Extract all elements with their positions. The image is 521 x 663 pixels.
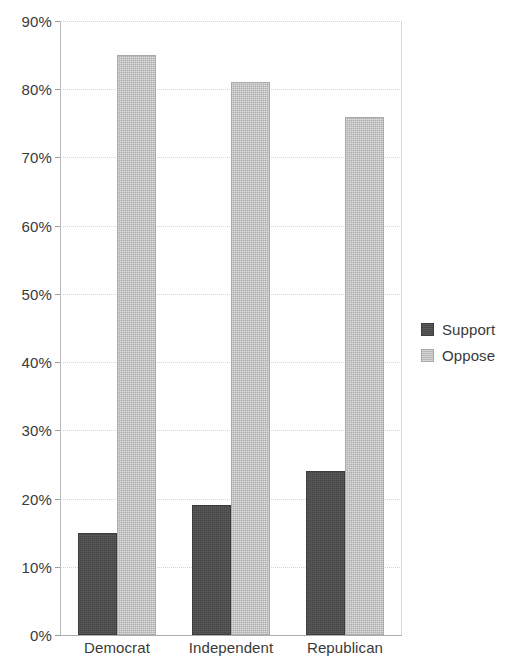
- bar-oppose-democrat: [117, 55, 156, 635]
- y-axis-tick-label: 60%: [21, 217, 52, 234]
- y-axis-tick-label: 80%: [21, 81, 52, 98]
- y-axis-tick: [55, 294, 60, 295]
- legend-item-support[interactable]: Support: [421, 316, 495, 342]
- bar-chart: 0%10%20%30%40%50%60%70%80%90% DemocratIn…: [0, 0, 521, 663]
- y-axis-labels: 0%10%20%30%40%50%60%70%80%90%: [0, 21, 60, 635]
- bar-group: [192, 21, 270, 635]
- x-axis-tick-label: Independent: [189, 639, 274, 656]
- x-axis-tick-label: Democrat: [84, 639, 150, 656]
- y-axis-tick-label: 50%: [21, 285, 52, 302]
- y-axis-tick-label: 30%: [21, 422, 52, 439]
- plot-area: [60, 21, 402, 635]
- y-axis-tick: [55, 226, 60, 227]
- bar-support-democrat: [78, 533, 117, 635]
- x-axis-tick-label: Republican: [307, 639, 383, 656]
- y-axis-tick-label: 90%: [21, 13, 52, 30]
- bar-oppose-independent: [231, 82, 270, 635]
- y-axis-tick: [55, 89, 60, 90]
- y-axis-tick: [55, 499, 60, 500]
- gridline: [60, 635, 402, 636]
- y-axis-tick: [55, 635, 60, 636]
- x-axis-labels: DemocratIndependentRepublican: [60, 639, 402, 663]
- legend-swatch-icon: [421, 323, 434, 336]
- legend-swatch-icon: [421, 349, 434, 362]
- bar-oppose-republican: [345, 117, 384, 635]
- y-axis-tick-label: 10%: [21, 558, 52, 575]
- y-axis-tick-label: 0%: [30, 627, 52, 644]
- y-axis-tick: [55, 21, 60, 22]
- bar-group: [78, 21, 156, 635]
- bar-support-independent: [192, 505, 231, 635]
- y-axis-tick: [55, 157, 60, 158]
- y-axis-tick-label: 40%: [21, 354, 52, 371]
- bar-group: [306, 21, 384, 635]
- y-axis-tick: [55, 430, 60, 431]
- y-axis-tick-label: 20%: [21, 490, 52, 507]
- y-axis-tick-label: 70%: [21, 149, 52, 166]
- y-axis-tick: [55, 362, 60, 363]
- y-axis-tick: [55, 567, 60, 568]
- legend-item-label: Support: [442, 321, 495, 338]
- legend-item-oppose[interactable]: Oppose: [421, 342, 495, 368]
- chart-legend: SupportOppose: [421, 316, 495, 368]
- legend-item-label: Oppose: [442, 347, 495, 364]
- bar-support-republican: [306, 471, 345, 635]
